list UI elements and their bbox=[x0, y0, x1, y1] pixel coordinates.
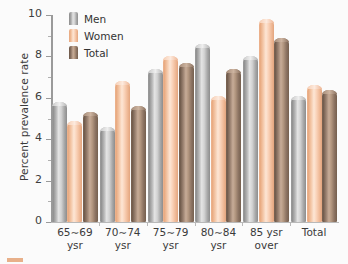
bar-men-1 bbox=[52, 102, 67, 222]
y-axis-minor-tick bbox=[48, 77, 51, 78]
y-axis-tick-mark bbox=[46, 222, 51, 223]
legend-label-women: Women bbox=[84, 30, 124, 42]
y-axis-tick-label: 0 bbox=[18, 214, 42, 227]
bar-total-1 bbox=[83, 112, 98, 222]
bar-cap bbox=[131, 106, 146, 110]
y-axis-tick-label: 8 bbox=[18, 48, 42, 61]
x-axis-label: 80∼84 ysr bbox=[195, 226, 243, 251]
y-axis-tick-mark bbox=[46, 98, 51, 99]
legend-swatch-men-icon bbox=[69, 12, 78, 25]
bar-cap bbox=[195, 44, 210, 48]
bar-cap bbox=[307, 85, 322, 89]
legend-item-women: Women bbox=[69, 28, 124, 43]
x-axis-label: 75∼79 ysr bbox=[147, 226, 195, 251]
bar-cap bbox=[274, 38, 289, 42]
bar-total-2 bbox=[131, 106, 146, 222]
bar-cap bbox=[243, 56, 258, 60]
bar-cap bbox=[226, 69, 241, 73]
bar-total-4 bbox=[226, 69, 241, 222]
legend-swatch-total-icon bbox=[69, 46, 78, 59]
y-axis-minor-tick bbox=[48, 201, 51, 202]
bar-total-6 bbox=[322, 90, 337, 222]
bar-chart-figure: Percent prevalence rate 0246810 Men Wome… bbox=[0, 0, 348, 264]
legend-item-men: Men bbox=[69, 11, 124, 26]
chart-legend: Men Women Total bbox=[69, 11, 124, 62]
bar-cap bbox=[83, 112, 98, 116]
bar-men-6 bbox=[291, 96, 306, 222]
bar-women-4 bbox=[211, 96, 226, 222]
legend-swatch-women-icon bbox=[69, 29, 78, 42]
legend-label-men: Men bbox=[84, 13, 106, 25]
bar-cap bbox=[52, 102, 67, 106]
bar-cap bbox=[67, 121, 82, 125]
bar-cap bbox=[179, 63, 194, 67]
bar-men-5 bbox=[243, 56, 258, 222]
y-axis-tick-label: 10 bbox=[18, 7, 42, 20]
y-axis-tick-mark bbox=[46, 181, 51, 182]
y-axis-minor-tick bbox=[48, 119, 51, 120]
bar-group bbox=[148, 15, 194, 222]
bar-cap bbox=[291, 96, 306, 100]
y-axis-tick-mark bbox=[46, 139, 51, 140]
bar-group bbox=[195, 15, 241, 222]
bar-cap bbox=[322, 90, 337, 94]
legend-label-total: Total bbox=[84, 47, 109, 59]
bar-women-5 bbox=[259, 19, 274, 222]
corner-color-mark bbox=[7, 258, 23, 262]
legend-item-total: Total bbox=[69, 45, 124, 60]
bar-cap bbox=[115, 81, 130, 85]
x-axis-label: 85 ysr over bbox=[242, 226, 290, 251]
y-axis-minor-tick bbox=[48, 36, 51, 37]
bar-cap bbox=[259, 19, 274, 23]
x-axis-label: 70∼74 ysr bbox=[99, 226, 147, 251]
bar-cap bbox=[148, 69, 163, 73]
bar-women-3 bbox=[163, 56, 178, 222]
x-axis-label: 65∼69 ysr bbox=[51, 226, 99, 251]
bar-group bbox=[243, 15, 289, 222]
bar-group bbox=[291, 15, 337, 222]
y-axis-tick-mark bbox=[46, 56, 51, 57]
x-axis-label: Total bbox=[290, 226, 338, 239]
bar-women-2 bbox=[115, 81, 130, 222]
bar-men-3 bbox=[148, 69, 163, 222]
bar-women-1 bbox=[67, 121, 82, 222]
bar-women-6 bbox=[307, 85, 322, 222]
bar-men-4 bbox=[195, 44, 210, 222]
y-axis-tick-label: 4 bbox=[18, 131, 42, 144]
y-axis-tick-label: 2 bbox=[18, 173, 42, 186]
bar-cap bbox=[163, 56, 178, 60]
bar-total-5 bbox=[274, 38, 289, 222]
y-axis-tick-label: 6 bbox=[18, 90, 42, 103]
y-axis-tick-mark bbox=[46, 15, 51, 16]
y-axis-minor-tick bbox=[48, 160, 51, 161]
bar-total-3 bbox=[179, 63, 194, 222]
bar-cap bbox=[211, 96, 226, 100]
bar-cap bbox=[100, 127, 115, 131]
bar-men-2 bbox=[100, 127, 115, 222]
